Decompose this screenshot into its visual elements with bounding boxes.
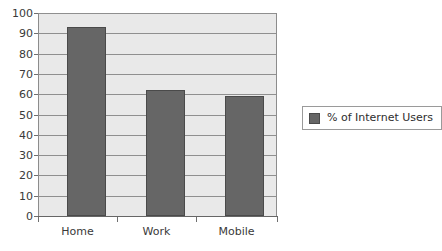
y-tick-label-0: 0 [3, 211, 33, 222]
y-tick-mark-20 [34, 175, 38, 176]
y-tick-label-80: 80 [3, 49, 33, 60]
bar-work [146, 90, 185, 216]
y-tick-label-60: 60 [3, 89, 33, 100]
legend-label-internet-users: % of Internet Users [327, 112, 433, 124]
y-tick-label-30: 30 [3, 150, 33, 161]
plot-area [38, 13, 277, 216]
x-tick-mark-3 [277, 217, 278, 222]
x-tick-mark-1 [117, 217, 118, 222]
y-tick-label-10: 10 [3, 191, 33, 202]
y-tick-label-90: 90 [3, 28, 33, 39]
y-tick-mark-10 [34, 196, 38, 197]
x-tick-mark-0 [38, 217, 39, 222]
y-tick-mark-80 [34, 54, 38, 55]
legend-swatch-internet-users [309, 113, 320, 124]
x-tick-label-work: Work [117, 226, 196, 238]
y-tick-mark-40 [34, 135, 38, 136]
y-tick-mark-100 [34, 13, 38, 14]
y-tick-mark-90 [34, 33, 38, 34]
y-tick-label-70: 70 [3, 69, 33, 80]
x-tick-label-home: Home [38, 226, 117, 238]
y-axis: 100 90 80 70 60 50 40 30 20 10 0 [0, 0, 33, 251]
y-tick-label-20: 20 [3, 170, 33, 181]
y-tick-mark-50 [34, 115, 38, 116]
bar-mobile [225, 96, 264, 216]
y-tick-mark-70 [34, 74, 38, 75]
y-tick-label-50: 50 [3, 110, 33, 121]
y-tick-label-40: 40 [3, 130, 33, 141]
legend: % of Internet Users [302, 106, 442, 130]
y-tick-mark-30 [34, 155, 38, 156]
x-tick-label-mobile: Mobile [196, 226, 277, 238]
x-axis-line [38, 216, 278, 217]
y-tick-mark-60 [34, 94, 38, 95]
y-tick-label-100: 100 [3, 8, 33, 19]
x-tick-mark-2 [196, 217, 197, 222]
bar-home [67, 27, 106, 216]
gridline-100 [39, 13, 276, 14]
